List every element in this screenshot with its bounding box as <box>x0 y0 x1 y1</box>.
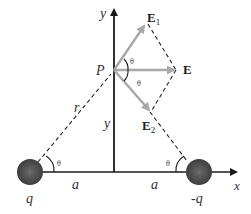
distance-a-left-label: a <box>72 177 79 192</box>
dashed-line-e1-to-e <box>148 24 176 70</box>
e-total-label: E <box>183 62 192 77</box>
e2-label: E2 <box>142 118 155 135</box>
charge-q-label: q <box>26 191 33 206</box>
e1-label-sub: 1 <box>156 17 161 27</box>
angle-arc-left-charge <box>46 156 54 172</box>
theta-lower-p: θ <box>137 79 141 88</box>
x-axis-label: x <box>233 178 240 193</box>
dashed-line-r <box>38 74 111 162</box>
angle-arc-upper-p <box>124 59 128 70</box>
distance-y-label: y <box>102 116 111 131</box>
e1-vector <box>114 26 144 70</box>
theta-left-charge: θ <box>57 159 61 168</box>
e2-label-sub: 2 <box>151 125 156 135</box>
e2-label-main: E <box>142 118 151 133</box>
angle-arc-right-charge <box>176 156 184 172</box>
theta-right-charge: θ <box>166 159 170 168</box>
y-axis-label: y <box>98 6 107 21</box>
distance-a-right-label: a <box>151 177 158 192</box>
theta-upper-p: θ <box>130 57 134 66</box>
point-p-label: P <box>95 63 105 78</box>
e1-label: E1 <box>147 10 160 27</box>
distance-r-label: r <box>74 100 80 115</box>
angle-arc-lower-p <box>124 70 128 81</box>
dashed-line-e-to-e2 <box>152 70 176 110</box>
charge-q-sign: + <box>29 170 32 175</box>
dashed-line-e2-to-charge <box>150 112 187 161</box>
e2-vector <box>114 70 149 110</box>
electric-field-diagram: + - y x P E1 E E2 θ θ θ θ r y a a q -q <box>0 0 251 214</box>
charge-minus-q-label: -q <box>191 191 203 206</box>
e1-label-main: E <box>147 10 156 25</box>
